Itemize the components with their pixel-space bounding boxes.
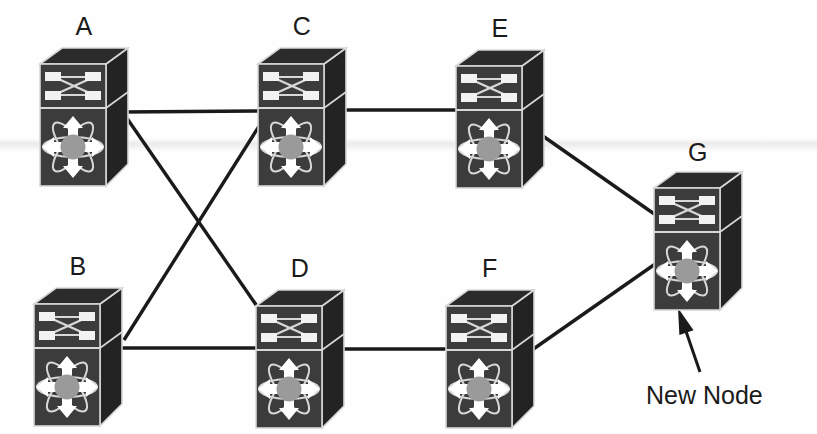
multilayer-switch-icon xyxy=(254,288,346,430)
network-diagram-canvas: ACEGBDF New Node xyxy=(0,0,817,434)
node-a[interactable]: A xyxy=(38,46,130,188)
node-b[interactable]: B xyxy=(32,286,124,428)
multilayer-switch-icon xyxy=(454,48,546,190)
node-f[interactable]: F xyxy=(444,288,536,430)
multilayer-switch-icon xyxy=(652,170,744,312)
new-node-label: New Node xyxy=(646,382,763,408)
node-d[interactable]: D xyxy=(254,288,346,430)
node-c[interactable]: C xyxy=(256,46,348,188)
link-a-c xyxy=(122,111,262,112)
callout-arrow-shaft xyxy=(685,327,700,372)
multilayer-switch-icon xyxy=(32,286,124,428)
multilayer-switch-icon xyxy=(444,288,536,430)
multilayer-switch-icon xyxy=(38,46,130,188)
link-f-g xyxy=(532,262,658,350)
node-label-b: B xyxy=(32,254,124,279)
node-g[interactable]: G xyxy=(652,170,744,312)
node-label-e: E xyxy=(454,16,546,41)
node-e[interactable]: E xyxy=(454,48,546,190)
node-label-d: D xyxy=(254,256,346,281)
node-label-c: C xyxy=(256,14,348,39)
callout-arrow-head xyxy=(678,308,694,335)
node-label-a: A xyxy=(38,14,130,39)
link-lines xyxy=(122,110,660,350)
node-label-f: F xyxy=(444,256,536,281)
link-e-g xyxy=(540,134,660,218)
node-label-g: G xyxy=(652,140,744,165)
multilayer-switch-icon xyxy=(256,46,348,188)
new-node-arrow-icon xyxy=(678,308,700,372)
